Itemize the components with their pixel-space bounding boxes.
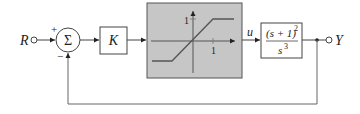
signal-u-label: u — [247, 25, 253, 39]
plant-numerator-exponent: 2 — [294, 24, 298, 33]
plant-numerator: (s + 1) — [266, 27, 296, 40]
x-tick-label: 1 — [211, 45, 216, 56]
gain-block: K — [100, 27, 127, 54]
saturation-block: 1 1 — [147, 3, 242, 78]
minus-sign: − — [57, 50, 63, 62]
plus-sign: + — [51, 23, 57, 35]
input-node: R — [19, 33, 37, 48]
output-label: Y — [335, 33, 345, 48]
input-label: R — [19, 33, 29, 48]
output-terminal-icon — [326, 37, 332, 43]
sigma-symbol: Σ — [64, 33, 72, 48]
plant-denominator-exponent: 3 — [284, 42, 288, 51]
input-terminal-icon — [31, 37, 37, 43]
summing-junction: Σ + − — [51, 23, 80, 62]
plant-block: (s + 1) 2 s 3 — [261, 23, 302, 58]
gain-label: K — [108, 33, 119, 48]
plant-denominator: s — [278, 44, 282, 56]
block-diagram: R Σ + − K 1 1 u (s + 1) 2 s 3 — [0, 0, 360, 114]
y-tick-label: 1 — [184, 15, 189, 26]
